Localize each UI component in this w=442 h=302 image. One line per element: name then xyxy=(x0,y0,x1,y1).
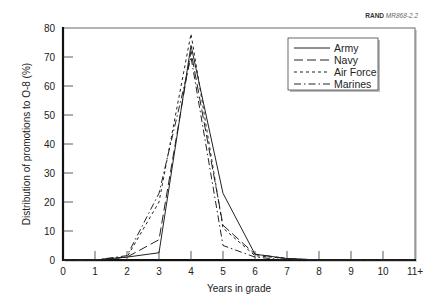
y-axis-title: Distribution of promotions to O-8 (%) xyxy=(21,63,32,225)
legend-label: Navy xyxy=(334,54,359,66)
legend: ArmyNavyAir ForceMarines xyxy=(288,38,380,92)
x-tick-label: 7 xyxy=(284,266,290,277)
x-tick-label: 2 xyxy=(124,266,130,277)
x-tick-label: 4 xyxy=(188,266,194,277)
y-tick-label: 80 xyxy=(44,23,56,34)
y-tick-label: 0 xyxy=(49,255,55,266)
legend-label: Marines xyxy=(334,78,371,90)
y-tick-label: 60 xyxy=(44,81,56,92)
x-axis-title: Years in grade xyxy=(207,283,272,294)
x-tick-label: 11+ xyxy=(407,266,423,277)
line-chart: 01020304050607080 01234567891011+ Years … xyxy=(0,0,442,302)
x-tick-label: 3 xyxy=(156,266,162,277)
y-tick-label: 20 xyxy=(44,197,56,208)
y-tick-label: 50 xyxy=(44,110,56,121)
y-tick-label: 40 xyxy=(44,139,56,150)
x-tick-label: 10 xyxy=(377,266,389,277)
y-tick-label: 70 xyxy=(44,52,56,63)
x-tick-label: 5 xyxy=(220,266,226,277)
x-tick-label: 6 xyxy=(252,266,258,277)
y-tick-label: 30 xyxy=(44,168,56,179)
x-tick-label: 0 xyxy=(60,266,66,277)
x-tick-label: 8 xyxy=(316,266,322,277)
x-tick-label: 9 xyxy=(348,266,354,277)
legend-label: Air Force xyxy=(334,66,377,78)
x-tick-label: 1 xyxy=(92,266,98,277)
legend-label: Army xyxy=(334,42,359,54)
y-tick-label: 10 xyxy=(44,226,56,237)
